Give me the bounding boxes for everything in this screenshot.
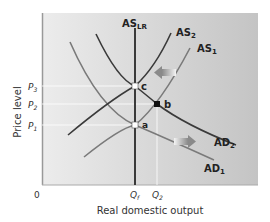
point-b-label: b xyxy=(164,99,171,110)
output-tick-q2: Q2 xyxy=(152,190,163,201)
price-tick-p1: P1 xyxy=(28,121,37,132)
as-ad-diagram: c b a ASLR AS2 AS1 AD2 AD1 P3 P2 P1 Pric… xyxy=(0,0,270,222)
price-tick-p2: P2 xyxy=(28,100,37,111)
point-a-label: a xyxy=(142,120,148,130)
origin-label: 0 xyxy=(34,190,40,200)
point-b-marker xyxy=(154,101,160,107)
x-axis-label: Real domestic output xyxy=(97,205,204,216)
price-tick-p3: P3 xyxy=(28,82,37,93)
point-a-marker xyxy=(132,122,138,128)
point-c-label: c xyxy=(141,81,147,92)
output-tick-qf: Qf xyxy=(130,190,140,201)
point-c-marker xyxy=(132,83,138,89)
y-axis-label: Price level xyxy=(12,86,23,137)
